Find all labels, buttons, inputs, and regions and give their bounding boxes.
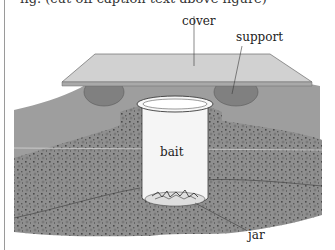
cover-label: cover [182,14,216,28]
support-label: support [236,30,283,44]
pitfall-trap-diagram [0,0,335,250]
cover-board [62,54,312,82]
bait-label: bait [160,145,184,159]
clipped-caption: fig. (cut-off caption text above figure) [20,0,267,6]
jar-label: jar [248,228,265,242]
cover-edge [62,82,312,86]
